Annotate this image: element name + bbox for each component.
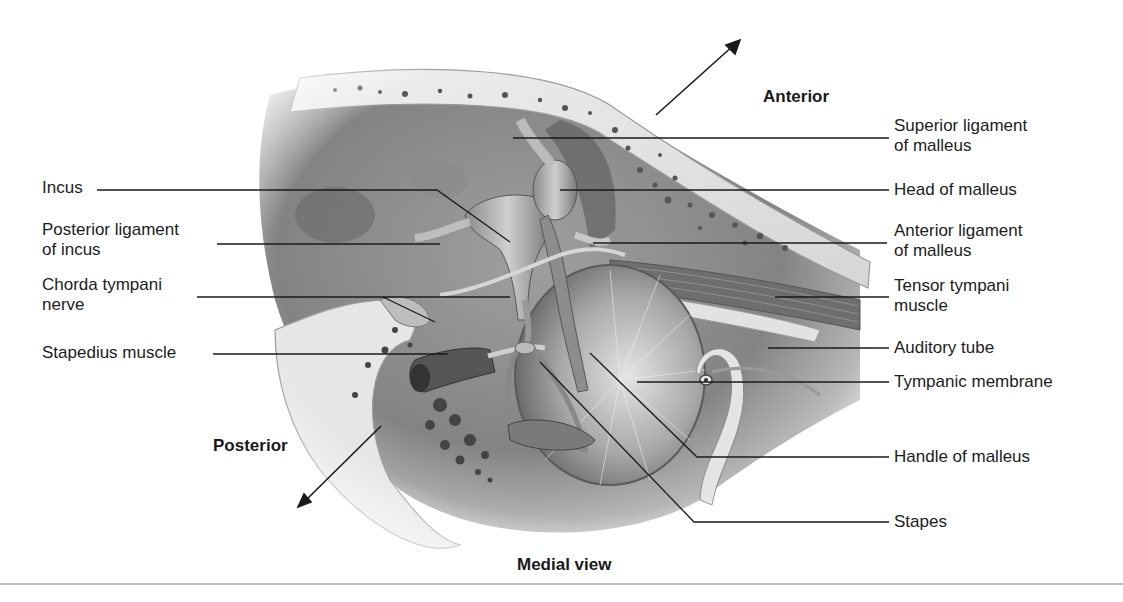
label-stapes: Stapes bbox=[894, 512, 947, 532]
label-posterior-ligament-of-incus: Posterior ligament of incus bbox=[42, 220, 179, 260]
posterior-label: Posterior bbox=[213, 436, 288, 456]
middle-ear-diagram: Incus Posterior ligament of incus Chorda… bbox=[0, 0, 1123, 602]
figure-caption: Medial view bbox=[517, 555, 611, 575]
label-incus: Incus bbox=[42, 178, 83, 198]
label-tensor-tympani-muscle: Tensor tympani muscle bbox=[894, 276, 1009, 316]
label-tympanic-membrane: Tympanic membrane bbox=[894, 372, 1053, 392]
bottom-divider bbox=[0, 583, 1123, 585]
label-superior-ligament-of-malleus: Superior ligament of malleus bbox=[894, 116, 1027, 156]
anterior-label: Anterior bbox=[763, 87, 829, 107]
label-head-of-malleus: Head of malleus bbox=[894, 180, 1017, 200]
label-handle-of-malleus: Handle of malleus bbox=[894, 447, 1030, 467]
label-chorda-tympani-nerve: Chorda tympani nerve bbox=[42, 275, 162, 315]
label-anterior-ligament-of-malleus: Anterior ligament of malleus bbox=[894, 221, 1023, 261]
label-auditory-tube: Auditory tube bbox=[894, 338, 994, 358]
label-stapedius-muscle: Stapedius muscle bbox=[42, 343, 176, 363]
